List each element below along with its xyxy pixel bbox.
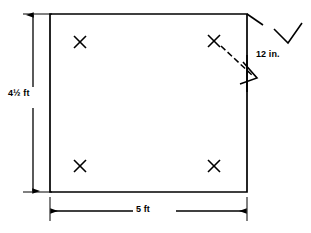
corner-tick-leader bbox=[247, 14, 263, 25]
depth-dimension-label: 12 in. bbox=[254, 49, 282, 60]
corner-markers bbox=[74, 35, 220, 172]
corner-marker-top-left bbox=[74, 36, 86, 48]
corner-tick-line bbox=[247, 14, 263, 25]
check-mark-annotation bbox=[274, 23, 302, 43]
figure-container: 4½ ft 5 ft 12 in. bbox=[0, 0, 311, 233]
check-mark-icon bbox=[274, 23, 302, 43]
corner-marker-top-right bbox=[208, 35, 220, 47]
corner-marker-bottom-right bbox=[208, 160, 220, 172]
height-dimension bbox=[23, 14, 52, 192]
technical-drawing-svg bbox=[0, 0, 311, 233]
width-dimension-label: 5 ft bbox=[134, 204, 152, 215]
corner-marker-bottom-left bbox=[74, 160, 86, 172]
height-dimension-label: 4½ ft bbox=[6, 88, 32, 99]
depth-leader bbox=[221, 46, 257, 92]
